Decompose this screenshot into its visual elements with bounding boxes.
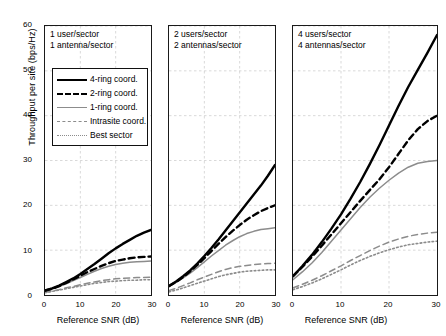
panel-2-title-line2: 2 antennas/sector <box>174 40 242 50</box>
y-tick-60: 60 <box>12 21 32 29</box>
panel-1-user-1-antenna: 1 user/sector 1 antenna/sector <box>44 25 152 296</box>
legend-item-4-ring: 4-ring coord. <box>57 72 143 86</box>
p1-x-axis-label: Reference SNR (dB) <box>44 315 152 325</box>
legend-item-1-ring: 1-ring coord. <box>57 100 143 114</box>
p2-x-tick-10: 10 <box>196 301 212 309</box>
panel-2-users-2-antennas: 2 users/sector 2 antennas/sector <box>168 25 276 296</box>
legend-item-best-sector: Best sector <box>57 128 143 142</box>
panel-1-title-line2: 1 antenna/sector <box>50 40 113 50</box>
p2-x-tick-20: 20 <box>232 301 248 309</box>
legend-item-intrasite: Intrasite coord. <box>57 114 143 128</box>
legend-label-4-ring: 4-ring coord. <box>87 74 138 84</box>
legend-label-1-ring: 1-ring coord. <box>87 102 138 112</box>
y-tick-50: 50 <box>12 66 32 74</box>
legend-swatch-solid-black-icon <box>57 74 87 84</box>
panel-2-title: 2 users/sector 2 antennas/sector <box>174 29 242 50</box>
panel-4-users-4-antennas: 4 users/sector 4 antennas/sector <box>292 25 438 296</box>
panel-1-title-line1: 1 user/sector <box>50 29 99 39</box>
panel-3-title-line1: 4 users/sector <box>298 29 351 39</box>
legend-swatch-dotted-gray-icon <box>57 130 87 140</box>
p1-x-tick-0: 0 <box>36 301 52 309</box>
y-tick-40: 40 <box>12 111 32 119</box>
y-tick-30: 30 <box>12 156 32 164</box>
p3-x-tick-30: 30 <box>428 301 444 309</box>
panel-3-title-line2: 4 antennas/sector <box>298 40 366 50</box>
panel-3-plot <box>293 26 437 295</box>
legend-label-intrasite: Intrasite coord. <box>87 116 146 126</box>
legend-item-2-ring: 2-ring coord. <box>57 86 143 100</box>
legend-label-best-sector: Best sector <box>87 130 133 140</box>
y-tick-20: 20 <box>12 201 32 209</box>
p1-x-tick-10: 10 <box>72 301 88 309</box>
p3-x-tick-0: 0 <box>284 301 300 309</box>
y-tick-0: 0 <box>12 292 32 300</box>
legend-swatch-dashed-gray-icon <box>57 116 87 126</box>
p2-x-tick-0: 0 <box>160 301 176 309</box>
panel-1-title: 1 user/sector 1 antenna/sector <box>50 29 113 50</box>
p2-x-axis-label: Reference SNR (dB) <box>168 315 276 325</box>
y-axis-ticks: 60 50 40 30 20 10 0 <box>10 0 32 336</box>
p2-x-tick-30: 30 <box>268 301 284 309</box>
y-tick-10: 10 <box>12 247 32 255</box>
panel-2-title-line1: 2 users/sector <box>174 29 227 39</box>
legend-swatch-dashed-black-icon <box>57 88 87 98</box>
p1-x-tick-20: 20 <box>108 301 124 309</box>
throughput-figure: Throughput per site (bps/Hz) 60 50 40 30… <box>0 0 446 336</box>
p3-x-axis-label: Reference SNR (dB) <box>292 315 400 325</box>
series-1-ring-coord- <box>293 161 437 280</box>
series-best-sector <box>293 241 437 289</box>
panel-2-plot <box>169 26 275 295</box>
p3-x-tick-10: 10 <box>332 301 348 309</box>
p3-x-tick-20: 20 <box>380 301 396 309</box>
legend-swatch-solid-gray-icon <box>57 102 87 112</box>
panel-1-plot <box>45 26 151 295</box>
p1-x-tick-30: 30 <box>144 301 160 309</box>
series-4-ring-coord- <box>169 165 275 286</box>
legend-label-2-ring: 2-ring coord. <box>87 88 138 98</box>
legend: 4-ring coord. 2-ring coord. 1-ring coord… <box>52 68 148 146</box>
panel-3-title: 4 users/sector 4 antennas/sector <box>298 29 366 50</box>
